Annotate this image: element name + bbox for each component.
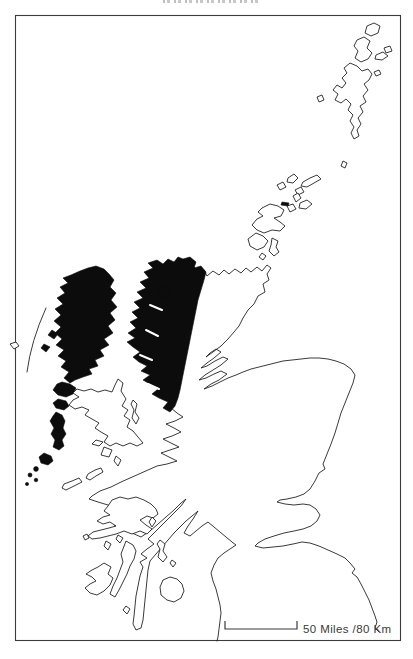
benbecula-filled <box>53 399 69 410</box>
lewis-harris-filled <box>54 266 117 383</box>
barra-filled <box>39 453 53 465</box>
arran-outline <box>160 577 184 602</box>
tiny-west-islet-outline <box>10 342 19 349</box>
mainland-north-east-coastline <box>193 265 379 632</box>
south-uist-filled <box>50 412 66 450</box>
mull-outline <box>88 497 158 539</box>
scotland-outline-map: 50 Miles /80 Km <box>0 0 413 659</box>
raasay-outline <box>131 400 139 424</box>
lismore-outline <box>149 517 156 527</box>
map-canvas: 50 Miles /80 Km <box>0 0 413 659</box>
orkney-islands-outline <box>248 174 321 260</box>
skye-outline <box>69 379 143 446</box>
shetland-islands-outline <box>317 23 392 168</box>
north-uist-filled <box>53 382 76 397</box>
jura-outline <box>110 541 136 597</box>
western-arc-line <box>27 308 46 372</box>
northwest-highlands-highlight <box>127 257 206 412</box>
inner-hebrides-outlines <box>62 379 184 614</box>
tiree-outline <box>62 478 82 490</box>
cropped-caption-fragment <box>163 0 261 3</box>
islay-outline <box>85 563 113 595</box>
scale-bar: 50 Miles /80 Km <box>225 621 391 635</box>
orkney-small-filled-mark <box>281 202 289 206</box>
scale-bar-label: 50 Miles /80 Km <box>303 623 391 635</box>
coll-outline <box>86 468 103 480</box>
